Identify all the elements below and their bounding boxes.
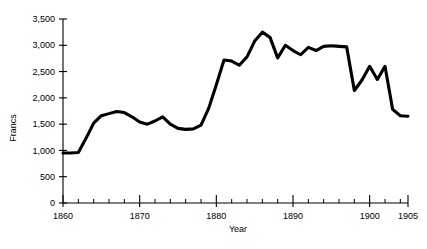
x-tick-label: 1870 [130,211,150,221]
x-axis-title: Year [229,224,247,234]
y-tick-label: 3,000 [32,40,55,50]
y-tick-label: 500 [40,172,55,182]
chart-figure: 05001,0001,5002,0002,5003,0003,500 18601… [0,0,427,249]
y-tick-label: 3,500 [32,14,55,24]
x-axis-minor-ticks [78,199,400,203]
x-tick-label: 1880 [206,211,226,221]
y-tick-label: 2,000 [32,93,55,103]
y-axis-tick-labels: 05001,0001,5002,0002,5003,0003,500 [32,14,55,208]
x-tick-label: 1900 [360,211,380,221]
y-tick-label: 1,500 [32,119,55,129]
x-axis-tick-labels: 186018701880189019001905 [53,211,418,221]
y-tick-label: 0 [50,198,55,208]
data-series-line [63,32,408,153]
x-tick-label: 1905 [398,211,418,221]
line-chart: 05001,0001,5002,0002,5003,0003,500 18601… [0,0,427,249]
y-tick-label: 1,000 [32,146,55,156]
x-tick-label: 1890 [283,211,303,221]
x-tick-label: 1860 [53,211,73,221]
y-axis-title: Francs [8,114,18,142]
y-tick-label: 2,500 [32,67,55,77]
x-axis-major-ticks [63,195,408,207]
